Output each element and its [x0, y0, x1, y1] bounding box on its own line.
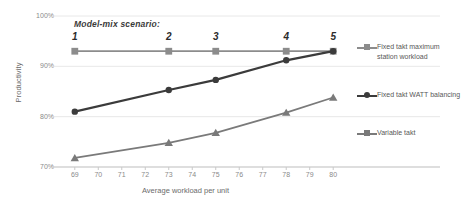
series-line-1: [75, 51, 333, 111]
legend-label: Variable takt: [377, 128, 461, 138]
legend-item-fixed-takt-watt-balancing[interactable]: Fixed takt WATT balancing: [357, 90, 461, 100]
scenario-number-5: 5: [325, 31, 341, 42]
x-axis-tick-71: 71: [113, 171, 131, 178]
x-axis-title: Average workload per unit: [142, 186, 229, 195]
x-axis-tick-75: 75: [207, 171, 225, 178]
x-axis-tick-69: 69: [66, 171, 84, 178]
data-point-marker: [72, 108, 78, 114]
x-axis-tick-73: 73: [160, 171, 178, 178]
legend-key-triangle-icon: [357, 129, 377, 138]
x-axis-tick-78: 78: [277, 171, 295, 178]
x-axis-tick-74: 74: [183, 171, 201, 178]
legend-item-fixed-takt-max-station-workload[interactable]: Fixed takt maximum station workload: [357, 42, 461, 61]
legend-key-circle-icon: [357, 91, 377, 100]
data-point-marker: [71, 48, 78, 55]
legend-label: Fixed takt maximum station workload: [377, 42, 461, 61]
x-axis-tick-80: 80: [324, 171, 342, 178]
scenario-number-4: 4: [278, 31, 294, 42]
data-point-marker: [330, 48, 336, 54]
x-axis-tick-76: 76: [230, 171, 248, 178]
scenario-header-label: Model-mix scenario:: [74, 19, 160, 29]
x-axis-tick-70: 70: [89, 171, 107, 178]
legend-item-variable-takt[interactable]: Variable takt: [357, 128, 461, 138]
data-point-marker: [329, 94, 337, 101]
legend-key-square-icon: [357, 43, 377, 52]
x-axis-tick-72: 72: [136, 171, 154, 178]
scenario-number-1: 1: [67, 31, 83, 42]
legend-label: Fixed takt WATT balancing: [377, 90, 461, 100]
x-axis-tick-77: 77: [254, 171, 272, 178]
data-point-marker: [166, 87, 172, 93]
data-point-marker: [212, 48, 219, 55]
x-axis-tick-79: 79: [301, 171, 319, 178]
data-point-marker: [283, 57, 289, 63]
scenario-number-2: 2: [161, 31, 177, 42]
data-point-marker: [213, 77, 219, 83]
data-point-marker: [283, 48, 290, 55]
productivity-line-chart: Productivity 100% 90% 80% 70% 6970717273…: [0, 0, 463, 213]
data-point-marker: [165, 48, 172, 55]
scenario-number-3: 3: [208, 31, 224, 42]
series-line-2: [75, 98, 333, 158]
